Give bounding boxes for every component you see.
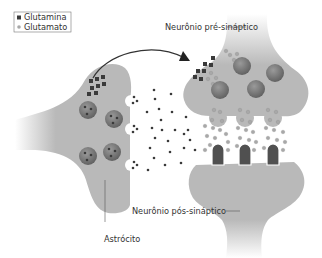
presynaptic-label: Neurônio pré-sináptico [165, 22, 258, 32]
astrocyte-label: Astrócito [104, 234, 140, 244]
glutamate-glutamine-cycle-diagram: Glutamina Glutamato [0, 0, 322, 258]
legend: Glutamina Glutamato [14, 12, 71, 32]
glutamine-marker-icon [17, 16, 21, 20]
postsynaptic-neuron [189, 144, 305, 258]
postsynaptic-label: Neurônio pós-sináptico [132, 206, 226, 216]
legend-glutamine-label: Glutamina [24, 12, 67, 22]
legend-glutamate-label: Glutamato [24, 22, 67, 32]
glutamate-marker-icon [17, 25, 21, 29]
astrocyte [15, 64, 138, 213]
